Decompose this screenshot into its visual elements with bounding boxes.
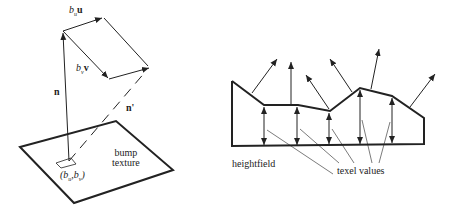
bump-mapping-figure: buu bvv n n' bump texture (bu,bv) height… [0,0,450,209]
label-normal-n: n [54,87,60,97]
heightfield-outline [232,81,424,146]
normal-n-arrow [63,33,69,161]
label-bump-texture: bump texture [112,148,140,168]
label-texel-values: texel values [337,166,384,176]
label-texel-coord: (bu,bv) [60,170,85,182]
parallelogram-edges [104,18,149,79]
bu-u-arrow [63,18,102,31]
label-bu-u: buu [69,5,83,17]
label-heightfield: heightfield [232,159,275,169]
texel-square [56,158,76,168]
bump-texture-plane [20,121,173,203]
texel-value-arrows [264,90,392,145]
label-bv-v: bvv [76,63,89,75]
label-perturbed-normal: n' [126,103,134,113]
